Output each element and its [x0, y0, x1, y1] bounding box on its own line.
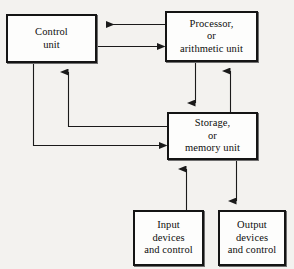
input-devices-box: Input devices and control	[133, 210, 204, 266]
output-devices-label-line-1: Output	[237, 219, 267, 232]
control-unit-label-line-1: Control	[35, 26, 68, 39]
output-devices-label-line-2: devices	[236, 232, 268, 245]
input-devices-label-line-1: Input	[157, 219, 180, 232]
block-diagram: Control unit Processor, or arithmetic un…	[0, 0, 294, 269]
storage-unit-label-line-3: memory unit	[185, 142, 240, 155]
input-devices-label-line-2: devices	[152, 232, 184, 245]
processor-unit-label-line-2: or	[207, 30, 216, 43]
processor-unit-label-line-1: Processor,	[189, 18, 233, 31]
control-unit-box: Control unit	[6, 14, 97, 63]
storage-unit-label-line-2: or	[208, 130, 217, 143]
storage-unit-label-line-1: Storage,	[195, 117, 231, 130]
output-devices-label-line-3: and control	[228, 244, 277, 257]
storage-unit-box: Storage, or memory unit	[167, 112, 258, 160]
connector-storage-to-control	[69, 72, 168, 127]
connector-control-to-storage	[34, 63, 160, 146]
output-devices-box: Output devices and control	[218, 210, 286, 266]
input-devices-label-line-3: and control	[144, 244, 193, 257]
control-unit-label-line-2: unit	[43, 39, 60, 52]
processor-unit-box: Processor, or arithmetic unit	[165, 11, 258, 62]
processor-unit-label-line-3: arithmetic unit	[180, 43, 243, 56]
